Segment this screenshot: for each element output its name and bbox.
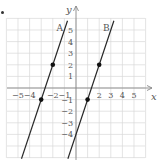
x-tick-label: 2: [97, 91, 102, 100]
y-tick-label: 3: [68, 49, 73, 58]
line-label-b: B: [103, 23, 110, 33]
y-tick-label: 2: [68, 61, 73, 70]
coordinate-plane: xy−5−4−2−1234554321−1−2−3−4AB: [0, 0, 161, 167]
x-tick-label: −5: [12, 91, 24, 100]
point-b: [85, 97, 90, 102]
point-b: [97, 63, 102, 68]
line-label-a: A: [55, 23, 63, 33]
point-a: [51, 63, 56, 68]
y-tick-label: 1: [68, 72, 73, 81]
x-axis-label: x: [151, 91, 157, 102]
y-tick-label: −3: [61, 119, 73, 128]
y-tick-label: 4: [68, 38, 73, 47]
y-axis-label: y: [65, 4, 72, 15]
x-tick-label: 4: [120, 91, 125, 100]
y-tick-label: −1: [61, 96, 73, 105]
x-tick-label: −4: [24, 91, 36, 100]
x-tick-label: 3: [108, 91, 113, 100]
y-tick-label: −2: [61, 107, 73, 116]
y-tick-label: 5: [68, 26, 73, 35]
point-a: [39, 97, 44, 102]
x-tick-label: −2: [47, 91, 59, 100]
y-tick-label: −4: [61, 130, 73, 139]
x-tick-label: 5: [131, 91, 136, 100]
